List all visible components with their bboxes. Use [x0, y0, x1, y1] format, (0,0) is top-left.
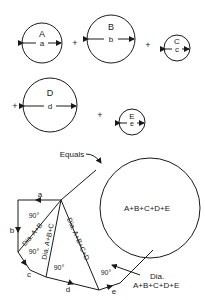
plus-sign: +	[12, 101, 17, 111]
side-c-label: c	[27, 270, 31, 279]
circle-b-dim: b	[109, 35, 114, 44]
plus-sign: +	[145, 40, 150, 50]
final-dia-label: Dia.	[150, 272, 164, 281]
circle-d-label: D	[47, 88, 54, 98]
circle-b-label: B	[108, 22, 114, 32]
right-angle-label: 90°	[29, 212, 40, 219]
equals-label: Equals	[60, 150, 84, 159]
plus-sign: +	[97, 110, 102, 120]
result-label: A+B+C+D+E	[124, 204, 170, 213]
circle-d-dim: d	[48, 102, 52, 111]
side-d-label: d	[66, 285, 70, 294]
plus-sign: +	[72, 38, 77, 48]
right-angle-label: 90°	[101, 269, 112, 276]
circle-sum-diagram: A a B b C c D d E e + + + + Equals A+B+C…	[0, 0, 205, 300]
right-angle-label: 90°	[29, 248, 40, 255]
circle-a-label: A	[39, 29, 45, 39]
right-angle-label: 90°	[54, 264, 65, 271]
diagonal-abcd-label: Dia. A+B+C+D	[66, 217, 91, 262]
final-dia-value: A+B+C+D+E	[133, 281, 179, 290]
diagonal-ab-label: Dia. A+B	[21, 221, 44, 247]
side-e-label: e	[112, 287, 117, 296]
circle-c-dim: c	[175, 45, 179, 54]
side-b-label: b	[10, 226, 15, 235]
side-a-label: a	[38, 190, 43, 199]
circle-e-dim: e	[130, 120, 134, 127]
circle-a-dim: a	[40, 39, 45, 48]
